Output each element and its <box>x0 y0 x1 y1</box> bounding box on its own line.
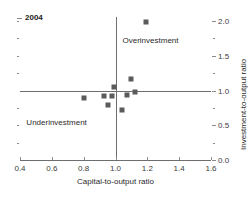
x-tick-label-1.2: 1.2 <box>142 164 153 173</box>
y-minor-tick-right <box>213 108 215 109</box>
x-tick-label-0.6: 0.6 <box>46 164 57 173</box>
plot-area: 0.40.60.81.01.21.41.60.00.51.01.52.0Over… <box>0 0 248 201</box>
data-point <box>129 77 134 82</box>
y-minor-tick-left <box>17 108 19 109</box>
data-point <box>110 94 115 99</box>
data-point <box>102 94 107 99</box>
data-point <box>105 103 110 108</box>
y-minor-tick-left <box>17 21 19 22</box>
y-minor-tick-left <box>17 143 19 144</box>
series-legend-tick <box>17 18 22 19</box>
x-tick-label-0.4: 0.4 <box>14 164 25 173</box>
y-minor-tick-left <box>17 56 19 57</box>
y-tick-1.0 <box>212 91 216 92</box>
y-tick-label-1.5: 1.5 <box>218 51 229 60</box>
data-point <box>124 92 129 97</box>
y-minor-tick-left <box>17 38 19 39</box>
x-axis-line <box>20 160 211 161</box>
x-tick-label-0.8: 0.8 <box>78 164 89 173</box>
x-tick-0.6 <box>52 157 53 160</box>
y-tick-1.5 <box>212 56 216 57</box>
y-tick-2.0 <box>212 21 216 22</box>
annotation-overinvestment: Overinvestment <box>123 36 179 45</box>
data-point <box>143 19 148 24</box>
data-point <box>111 85 116 90</box>
data-point <box>132 89 137 94</box>
annotation-underinvestment: Underinvestment <box>26 117 86 126</box>
x-tick-label-1.6: 1.6 <box>205 164 216 173</box>
x-tick-1.2 <box>147 157 148 160</box>
y-tick-0.5 <box>212 125 216 126</box>
x-tick-1.0 <box>116 157 117 160</box>
x-tick-label-1.0: 1.0 <box>110 164 121 173</box>
series-year-label: 2004 <box>25 13 43 22</box>
y-minor-tick-right <box>213 143 215 144</box>
y-minor-tick-left <box>17 125 19 126</box>
y-minor-tick-left <box>17 73 19 74</box>
y-axis-title: Investment-to-output ratio <box>239 59 248 150</box>
y-tick-label-1.0: 1.0 <box>218 86 229 95</box>
data-point <box>81 96 86 101</box>
y-tick-0.0 <box>212 160 216 161</box>
y-minor-tick-right <box>213 38 215 39</box>
x-axis-title: Capital-to-output ratio <box>77 177 154 186</box>
data-point <box>119 107 124 112</box>
y-tick-label-0.5: 0.5 <box>218 121 229 130</box>
y-minor-tick-right <box>213 73 215 74</box>
y-tick-label-0.0: 0.0 <box>218 156 229 165</box>
x-tick-0.4 <box>20 157 21 160</box>
y-tick-label-2.0: 2.0 <box>218 17 229 26</box>
scatter-chart: 0.40.60.81.01.21.41.60.00.51.01.52.0Over… <box>0 0 248 201</box>
x-tick-0.8 <box>84 157 85 160</box>
x-tick-1.4 <box>179 157 180 160</box>
x-tick-label-1.4: 1.4 <box>174 164 185 173</box>
